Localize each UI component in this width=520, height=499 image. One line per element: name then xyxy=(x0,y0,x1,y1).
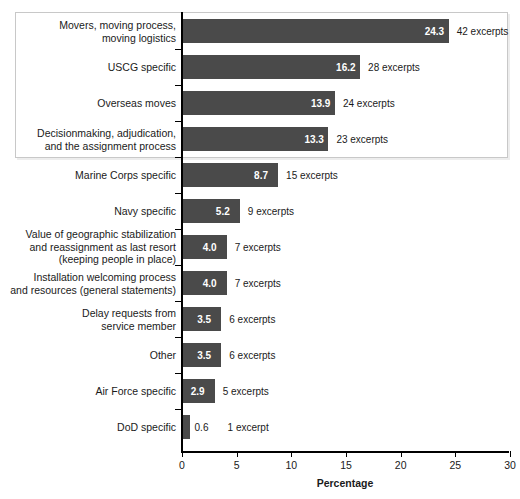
category-label: Value of geographic stabilization and re… xyxy=(6,228,182,266)
excerpt-count-label: 28 excerpts xyxy=(368,62,420,73)
bar-row: Value of geographic stabilization and re… xyxy=(0,235,520,259)
value-tick xyxy=(510,451,511,457)
excerpt-count-label: 6 excerpts xyxy=(229,350,275,361)
excerpt-count-label: 7 excerpts xyxy=(235,278,281,289)
value-tick xyxy=(455,451,456,457)
bar-row: Installation welcoming process and resou… xyxy=(0,271,520,295)
category-label: Navy specific xyxy=(6,205,182,218)
bar-row: Navy specific5.29 excerpts xyxy=(0,199,520,223)
category-label: Overseas moves xyxy=(6,97,182,110)
bar-row: Movers, moving process, moving logistics… xyxy=(0,19,520,43)
value-tick xyxy=(182,451,183,457)
value-axis-line xyxy=(181,451,509,453)
excerpt-count-label: 7 excerpts xyxy=(235,242,281,253)
excerpt-count-label: 1 excerpt xyxy=(228,422,269,433)
value-tick-label: 10 xyxy=(285,459,297,471)
bar-row: Delay requests from service member3.56 e… xyxy=(0,307,520,331)
bar-value-label: 2.9 xyxy=(191,386,205,397)
value-tick-label: 15 xyxy=(340,459,352,471)
bar-row: Decisionmaking, adjudication, and the as… xyxy=(0,127,520,151)
bar-value-label: 0.6 xyxy=(195,422,209,433)
category-tick xyxy=(175,49,182,50)
bar-chart: Movers, moving process, moving logistics… xyxy=(0,0,520,499)
bar-row: Air Force specific2.95 excerpts xyxy=(0,379,520,403)
category-label: Other xyxy=(6,349,182,362)
bar xyxy=(183,19,449,43)
category-label: Marine Corps specific xyxy=(6,169,182,182)
category-label: Delay requests from service member xyxy=(6,307,182,332)
excerpt-count-label: 6 excerpts xyxy=(229,314,275,325)
value-tick xyxy=(401,451,402,457)
category-tick xyxy=(175,85,182,86)
value-tick-label: 0 xyxy=(179,459,185,471)
category-label: Movers, moving process, moving logistics xyxy=(6,19,182,44)
bar-value-label: 5.2 xyxy=(216,206,230,217)
bar-row: Overseas moves13.924 excerpts xyxy=(0,91,520,115)
value-tick-label: 5 xyxy=(234,459,240,471)
category-tick xyxy=(175,337,182,338)
category-label: Air Force specific xyxy=(6,385,182,398)
bar-value-label: 13.3 xyxy=(304,134,323,145)
bar-value-label: 3.5 xyxy=(197,314,211,325)
bar-row: Marine Corps specific8.715 excerpts xyxy=(0,163,520,187)
category-tick xyxy=(175,301,182,302)
category-tick xyxy=(175,157,182,158)
category-tick xyxy=(175,409,182,410)
bar-value-label: 3.5 xyxy=(197,350,211,361)
category-tick xyxy=(175,373,182,374)
bar-value-label: 8.7 xyxy=(254,170,268,181)
category-label: USCG specific xyxy=(6,61,182,74)
bar-value-label: 24.3 xyxy=(425,26,444,37)
value-tick xyxy=(291,451,292,457)
category-label: Decisionmaking, adjudication, and the as… xyxy=(6,127,182,152)
excerpt-count-label: 9 excerpts xyxy=(248,206,294,217)
bar xyxy=(183,199,240,223)
category-tick xyxy=(175,229,182,230)
excerpt-count-label: 23 excerpts xyxy=(336,134,388,145)
bar-value-label: 13.9 xyxy=(311,98,330,109)
category-label: DoD specific xyxy=(6,421,182,434)
value-tick-label: 30 xyxy=(504,459,516,471)
bar-row: USCG specific16.228 excerpts xyxy=(0,55,520,79)
category-tick xyxy=(175,193,182,194)
value-tick-label: 20 xyxy=(395,459,407,471)
value-tick-label: 25 xyxy=(449,459,461,471)
value-tick xyxy=(346,451,347,457)
excerpt-count-label: 5 excerpts xyxy=(223,386,269,397)
bar xyxy=(183,415,190,439)
category-label: Installation welcoming process and resou… xyxy=(6,271,182,296)
excerpt-count-label: 24 excerpts xyxy=(343,98,395,109)
bar-row: Other3.56 excerpts xyxy=(0,343,520,367)
bar-value-label: 16.2 xyxy=(336,62,355,73)
bar xyxy=(183,55,360,79)
category-tick xyxy=(175,121,182,122)
excerpt-count-label: 15 excerpts xyxy=(286,170,338,181)
bar-row: DoD specific0.61 excerpt xyxy=(0,415,520,439)
category-tick xyxy=(175,265,182,266)
value-tick xyxy=(237,451,238,457)
excerpt-count-label: 42 excerpts xyxy=(457,26,509,37)
x-axis-title: Percentage xyxy=(181,477,509,489)
bar-value-label: 4.0 xyxy=(203,278,217,289)
bar-value-label: 4.0 xyxy=(203,242,217,253)
